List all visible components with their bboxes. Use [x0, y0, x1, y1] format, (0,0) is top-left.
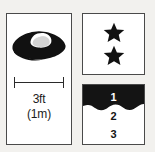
scale-panel: 3ft (1m) [6, 13, 72, 145]
depth-panel: 1 2 3 [82, 84, 145, 145]
size-imperial-label: 3ft [7, 92, 71, 107]
flying-saucer-icon [7, 24, 71, 72]
size-metric-label: (1m) [7, 107, 71, 122]
depth-level-label-3: 3 [83, 128, 144, 140]
scale-bar-line [14, 82, 64, 83]
legend-figure: 3ft (1m) 1 2 3 [0, 0, 155, 152]
scale-bar-cap-left [14, 77, 15, 88]
depth-level-label-2: 2 [83, 110, 144, 122]
star-icon [103, 22, 125, 43]
size-scale-bar [14, 77, 64, 88]
rating-panel [82, 13, 145, 75]
scale-bar-cap-right [63, 77, 64, 88]
star-icon [103, 45, 125, 66]
scale-labels: 3ft (1m) [7, 92, 71, 122]
star-rating [83, 14, 144, 74]
depth-level-label-1: 1 [83, 91, 144, 103]
